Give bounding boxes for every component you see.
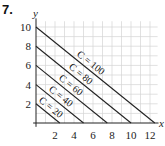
y-tick-label: 8: [26, 40, 32, 52]
level-curves-chart: xy24681012246810C = 20C = 40C = 60C = 80…: [0, 0, 165, 146]
y-tick-label: 4: [26, 79, 32, 91]
x-tick-label: 4: [71, 129, 77, 141]
y-axis-label: y: [32, 7, 38, 19]
y-tick-label: 10: [20, 21, 32, 33]
x-tick-label: 8: [109, 129, 115, 141]
y-tick-label: 2: [26, 98, 32, 110]
x-tick-label: 10: [126, 129, 138, 141]
y-tick-label: 6: [26, 59, 32, 71]
x-axis-label: x: [158, 117, 164, 129]
x-tick-label: 6: [90, 129, 96, 141]
x-tick-label: 12: [145, 129, 156, 141]
x-tick-label: 2: [52, 129, 58, 141]
